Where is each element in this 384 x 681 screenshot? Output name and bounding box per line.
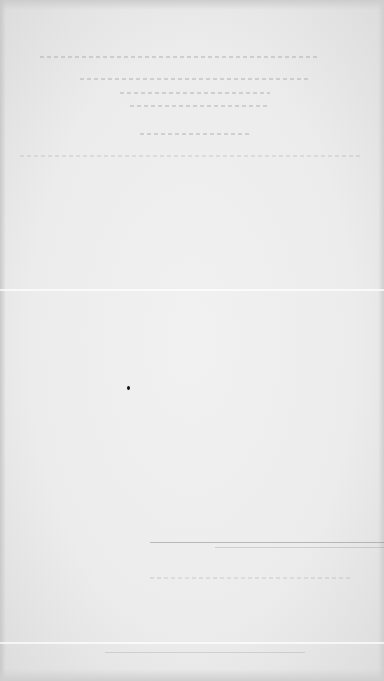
page-edge-right	[378, 0, 384, 681]
page-fold	[0, 642, 384, 644]
horizontal-rule	[215, 547, 384, 548]
bleed-through-line	[130, 105, 270, 107]
bleed-through-line	[20, 155, 360, 157]
page-edge-top	[0, 0, 384, 10]
bleed-through-line	[150, 577, 350, 579]
bleed-through-line	[80, 78, 310, 80]
bleed-through-line	[40, 56, 320, 58]
bleed-through-line	[140, 133, 250, 135]
scanned-page	[0, 0, 384, 681]
bleed-through-line	[120, 92, 270, 94]
horizontal-rule	[150, 542, 384, 543]
ink-speck	[127, 386, 130, 390]
page-fold	[0, 289, 384, 291]
page-edge-left	[0, 0, 6, 681]
horizontal-rule	[105, 652, 305, 653]
page-edge-bottom	[0, 669, 384, 681]
